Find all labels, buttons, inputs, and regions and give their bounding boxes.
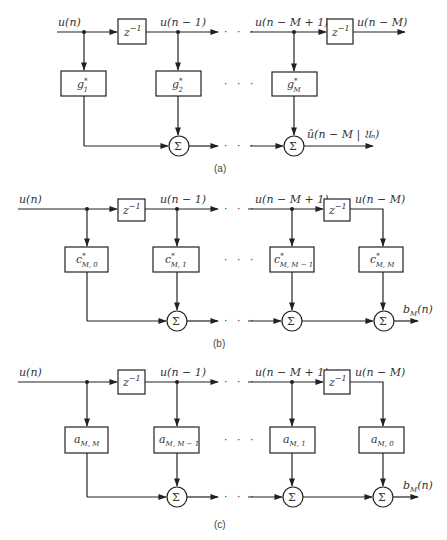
input-label: u(n) (19, 366, 42, 379)
ellipsis: · · · (224, 77, 256, 90)
weight-g2: g*2 (156, 71, 201, 96)
weight-aMM: aM, M (65, 427, 108, 453)
tap1-label: u(n − 1) (160, 366, 206, 379)
svg-text:Σ: Σ (379, 315, 387, 328)
tapM1-label: u(n − M + 1) (255, 16, 328, 29)
svg-text:Σ: Σ (172, 315, 180, 328)
weight-cMM: c*M, M (359, 247, 403, 272)
svg-text:Σ: Σ (172, 491, 180, 504)
panel-c-backward-error-filter: u(n) z−1 u(n − 1) · · · u(n − M + 1) z−1… (18, 366, 433, 530)
weight-cM1: c*M, 1 (153, 247, 199, 272)
panel-label: (c) (214, 519, 226, 530)
weight-g1: g*1 (61, 71, 106, 96)
weight-aM0: aM, 0 (359, 427, 404, 453)
delay-element: z−1 (324, 199, 350, 221)
summer: Σ (167, 487, 187, 507)
delay-element: z−1 (118, 370, 145, 394)
output-label: bM(n) (403, 479, 433, 494)
panel-a-forward-predictor: u(n) z−1 u(n − 1) · · · u(n − M + 1) z−1… (57, 16, 407, 174)
tapM1-label: u(n − M + 1) (255, 366, 328, 379)
summer: Σ (373, 487, 393, 507)
output-label: û(n − M | 𝔘ₙ) (307, 128, 379, 142)
summer: Σ (284, 136, 304, 156)
summer: Σ (282, 311, 302, 331)
svg-text:Σ: Σ (289, 140, 297, 153)
svg-text:Σ: Σ (174, 140, 182, 153)
panel-label: (b) (213, 338, 225, 349)
weight-cM0: c*M, 0 (65, 247, 108, 272)
weight-cMM-1: c*M, M − 1 (270, 247, 314, 272)
delay-element: z−1 (118, 199, 145, 221)
summer: Σ (167, 311, 187, 331)
weight-gM: g*M (272, 72, 317, 96)
delay-element: z−1 (324, 370, 350, 394)
summer: Σ (374, 311, 394, 331)
tapM1-label: u(n − M + 1) (255, 193, 328, 206)
tapM-label: u(n − M) (355, 366, 405, 379)
panel-label: (a) (214, 163, 226, 174)
ellipsis: · · · (224, 253, 256, 266)
tap1-label: u(n − 1) (160, 16, 206, 29)
delay-element: z−1 (118, 19, 146, 44)
final-tap-wire (350, 209, 383, 246)
output-label: bM(n) (403, 303, 433, 318)
weight-aMM-1: aM, M − 1 (154, 427, 199, 453)
svg-text:Σ: Σ (378, 491, 386, 504)
final-tap-wire (350, 382, 383, 426)
tapM-label: u(n − M) (357, 16, 407, 29)
input-label: u(n) (19, 193, 42, 206)
tap1-label: u(n − 1) (160, 193, 206, 206)
tapM-label: u(n − M) (355, 193, 405, 206)
filter-structures-figure: u(n) z−1 u(n − 1) · · · u(n − M + 1) z−1… (0, 0, 447, 540)
summer: Σ (169, 136, 189, 156)
ellipsis: · · · (224, 433, 256, 446)
weight-aM1: aM, 1 (270, 427, 315, 453)
panel-b-backward-predictor: u(n) z−1 u(n − 1) · · · u(n − M + 1) z−1… (18, 193, 433, 349)
delay-element: z−1 (327, 19, 353, 44)
svg-text:Σ: Σ (287, 315, 295, 328)
svg-text:Σ: Σ (288, 491, 296, 504)
summer: Σ (283, 487, 303, 507)
input-label: u(n) (58, 16, 81, 29)
